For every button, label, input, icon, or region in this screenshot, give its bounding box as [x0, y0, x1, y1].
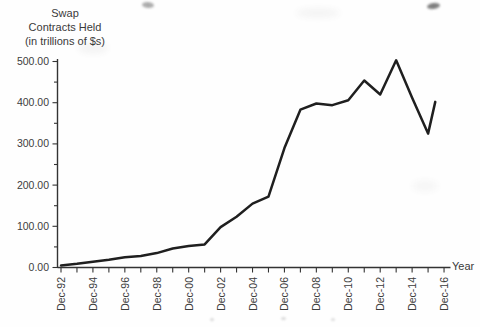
x-tick-label: Dec-92 — [55, 277, 67, 311]
x-tick-label: Dec-12 — [374, 277, 386, 311]
y-tick-label: 0.00 — [29, 261, 50, 273]
y-tick-label: 100.00 — [17, 220, 49, 232]
y-tick-label: 400.00 — [17, 96, 49, 108]
x-tick-label: Dec-14 — [406, 277, 418, 311]
x-tick-label: Dec-08 — [310, 277, 322, 311]
x-tick-label: Dec-98 — [151, 277, 163, 311]
x-tick-label: Dec-06 — [278, 277, 290, 311]
line-chart: 0.00100.00200.00300.00400.00500.00Dec-92… — [0, 0, 480, 327]
x-tick-label: Dec-00 — [183, 277, 195, 311]
y-tick-label: 200.00 — [17, 179, 49, 191]
x-tick-label: Dec-02 — [215, 277, 227, 311]
y-tick-label: 300.00 — [17, 137, 49, 149]
x-tick-label: Dec-96 — [119, 277, 131, 311]
x-tick-label: Dec-16 — [438, 277, 450, 311]
x-tick-label: Dec-04 — [247, 277, 259, 311]
y-tick-label: 500.00 — [17, 55, 49, 67]
x-tick-label: Dec-10 — [342, 277, 354, 311]
swap-contracts-data-line — [61, 60, 435, 265]
x-tick-label: Dec-94 — [87, 277, 99, 311]
chart-figure: Swap Contracts Held (in trillions of $s)… — [0, 0, 480, 327]
